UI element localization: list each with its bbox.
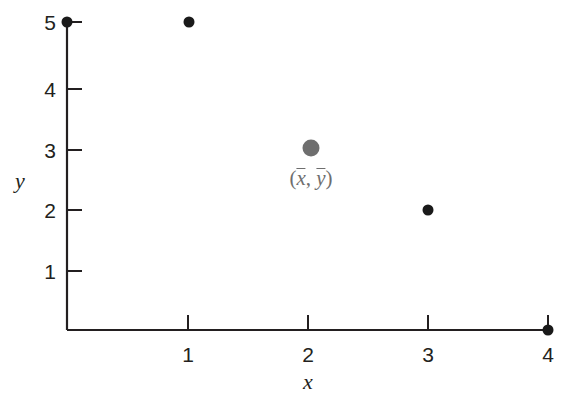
y-tick-label-3: 3 xyxy=(44,140,56,161)
centroid-label: (x, y) xyxy=(289,167,332,189)
centroid-x-bar: x xyxy=(296,167,305,189)
centroid-comma: , xyxy=(306,166,317,190)
data-point xyxy=(423,205,434,216)
x-tick-label-4: 4 xyxy=(542,344,554,365)
data-point xyxy=(62,17,73,28)
x-tick-label-1: 1 xyxy=(182,344,194,365)
data-point xyxy=(543,325,554,336)
y-tick-label-4: 4 xyxy=(44,79,56,100)
scatter-plot-figure: 5 4 3 2 1 1 2 3 4 y x (x, y) xyxy=(0,0,569,407)
y-tick-label-2: 2 xyxy=(44,200,56,221)
x-tick-label-3: 3 xyxy=(422,344,434,365)
centroid-y-bar: y xyxy=(316,167,325,189)
y-tick-label-5: 5 xyxy=(44,12,56,33)
centroid-open-paren: ( xyxy=(289,166,296,190)
y-tick-label-1: 1 xyxy=(44,261,56,282)
x-tick-label-2: 2 xyxy=(302,344,314,365)
centroid-point xyxy=(303,140,320,157)
plot-axes xyxy=(0,0,569,407)
x-axis-title: x xyxy=(303,371,313,393)
data-point xyxy=(184,17,195,28)
centroid-close-paren: ) xyxy=(326,166,333,190)
y-axis-title: y xyxy=(15,170,25,192)
